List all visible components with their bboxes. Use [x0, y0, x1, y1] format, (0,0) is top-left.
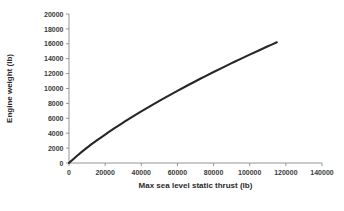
x-tick-label: 140000 — [310, 169, 333, 176]
x-tick-label: 60000 — [168, 169, 188, 176]
y-tick-label: 4000 — [48, 130, 64, 137]
y-tick-label: 12000 — [44, 70, 64, 77]
x-tick-label: 120000 — [274, 169, 297, 176]
x-tick-label: 20000 — [95, 169, 115, 176]
y-tick-label: 8000 — [48, 100, 64, 107]
x-tick-label: 40000 — [132, 169, 152, 176]
y-tick-label: 10000 — [44, 85, 64, 92]
y-tick-label: 2000 — [48, 145, 64, 152]
figure-caption — [6, 197, 338, 209]
y-tick-label: 6000 — [48, 115, 64, 122]
y-tick-label: 16000 — [44, 40, 64, 47]
x-axis-title: Max sea level static thrust (lb) — [139, 181, 253, 190]
y-tick-label: 0 — [60, 160, 64, 167]
y-tick-label: 20000 — [44, 11, 64, 18]
x-tick-label: 100000 — [238, 169, 261, 176]
figure-container: 0200040006000800010000120001400016000180… — [0, 0, 344, 211]
x-tick-label: 80000 — [204, 169, 224, 176]
x-tick-label: 0 — [67, 169, 71, 176]
y-tick-label: 14000 — [44, 55, 64, 62]
y-tick-label: 18000 — [44, 26, 64, 33]
y-axis-title: Engine weight (lb) — [5, 54, 14, 123]
line-chart: 0200040006000800010000120001400016000180… — [0, 0, 344, 211]
